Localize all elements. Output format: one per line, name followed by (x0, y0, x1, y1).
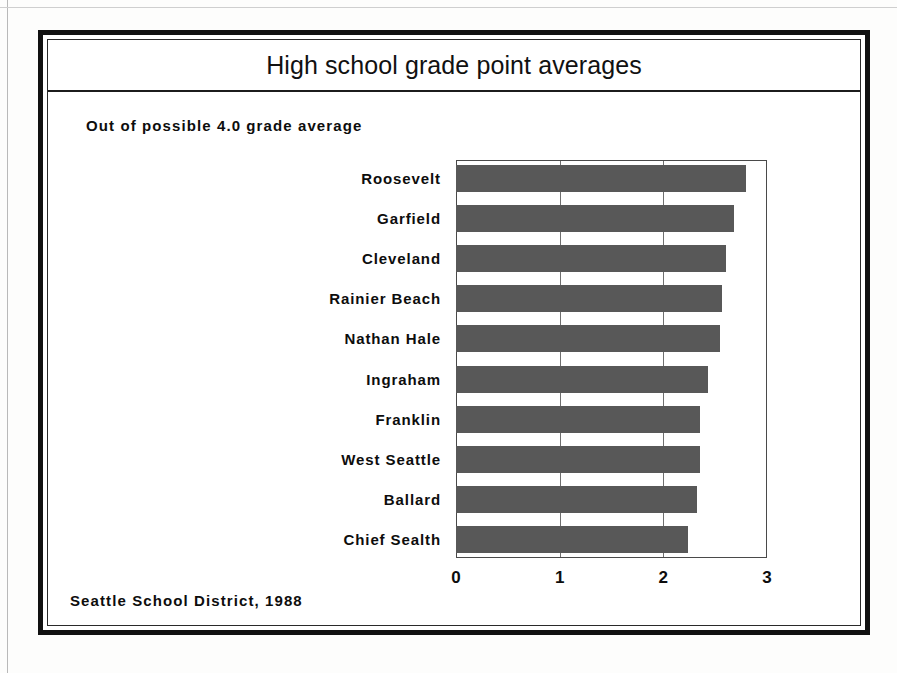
bar (456, 486, 697, 513)
bar-row (456, 406, 767, 433)
category-label: Ingraham (96, 366, 441, 393)
category-label: Rainier Beach (96, 285, 441, 312)
bar-row (456, 165, 767, 192)
bar-row (456, 526, 767, 553)
category-label: Chief Sealth (96, 526, 441, 553)
x-tick-label: 3 (762, 568, 771, 588)
category-label: Franklin (96, 406, 441, 433)
bar (456, 285, 722, 312)
bar-row (456, 446, 767, 473)
bar-row (456, 325, 767, 352)
bar (456, 205, 734, 232)
chart-frame: High school grade point averages Out of … (38, 30, 870, 635)
bar-row (456, 205, 767, 232)
chart-body: Out of possible 4.0 grade average Roosev… (48, 92, 860, 625)
page-rule-left (7, 0, 8, 673)
x-axis-ticks: 0123 (456, 558, 767, 592)
category-label: Roosevelt (96, 165, 441, 192)
bar-row (456, 285, 767, 312)
x-tick-label: 2 (659, 568, 668, 588)
bar (456, 245, 726, 272)
bar (456, 325, 720, 352)
x-tick-label: 1 (555, 568, 564, 588)
category-label: Garfield (96, 205, 441, 232)
category-label: Nathan Hale (96, 325, 441, 352)
bar-row (456, 245, 767, 272)
category-label: Cleveland (96, 245, 441, 272)
bar (456, 165, 746, 192)
x-tick-label: 0 (451, 568, 460, 588)
category-label: West Seattle (96, 446, 441, 473)
chart-inner-border: High school grade point averages Out of … (47, 39, 861, 626)
source-note: Seattle School District, 1988 (70, 592, 303, 609)
title-band: High school grade point averages (48, 40, 860, 92)
category-label: Ballard (96, 486, 441, 513)
bar (456, 366, 708, 393)
category-axis-labels: RooseveltGarfieldClevelandRainier BeachN… (96, 160, 441, 558)
chart-title: High school grade point averages (266, 51, 642, 80)
bar-row (456, 486, 767, 513)
bar (456, 406, 700, 433)
bar (456, 526, 688, 553)
bar-series (456, 160, 767, 558)
plot-wrap: RooseveltGarfieldClevelandRainier BeachN… (456, 160, 767, 558)
bar (456, 446, 700, 473)
bar-row (456, 366, 767, 393)
page-rule-top (0, 7, 897, 8)
chart-subtitle: Out of possible 4.0 grade average (86, 117, 362, 134)
